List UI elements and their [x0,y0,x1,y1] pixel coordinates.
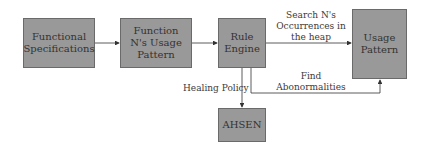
node-rule-engine: Rule Engine [218,18,266,68]
edge-label-healing-policy: Healing Policy [183,83,249,94]
node-ahsen: AHSEN [218,108,266,142]
diagram-canvas: Functional Specifications Function N's U… [0,0,433,154]
node-usage-pattern: Usage Pattern [352,9,407,79]
node-label: Rule Engine [218,31,266,55]
node-label: Function N's Usage Pattern [121,25,191,61]
edge-label-search: Search N's Occurrences in the heap [272,10,350,43]
node-label: Functional Specifications [24,31,95,55]
edge-label-abnormalities: Find Abonormalities [272,71,350,93]
node-functional-specifications: Functional Specifications [23,18,95,68]
node-label: Usage Pattern [353,32,406,56]
node-label: AHSEN [223,119,262,131]
node-function-usage-pattern: Function N's Usage Pattern [120,18,192,68]
